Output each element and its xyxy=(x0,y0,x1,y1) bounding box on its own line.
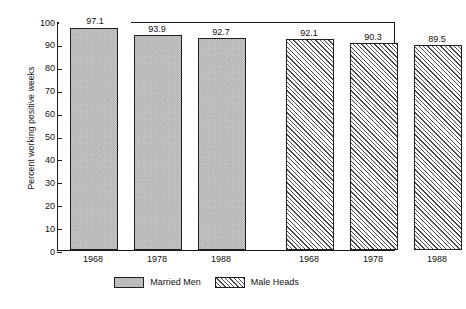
y-tick-mark xyxy=(57,46,62,47)
legend-label: Male Heads xyxy=(251,277,299,288)
y-tick-label: 100 xyxy=(31,17,55,29)
y-tick-mark xyxy=(57,138,62,139)
y-tick-mark xyxy=(57,229,62,230)
bar xyxy=(286,39,334,250)
y-tick-mark xyxy=(57,183,62,184)
bar-value-label: 93.9 xyxy=(123,24,191,34)
bar-value-label: 92.7 xyxy=(187,27,255,37)
bar xyxy=(350,43,398,250)
y-tick-label: 50 xyxy=(31,131,55,143)
y-tick-mark xyxy=(57,115,62,116)
y-tick-label: 40 xyxy=(31,154,55,166)
bar-value-label: 89.5 xyxy=(403,34,466,44)
plot-area: 0102030405060708090100 xyxy=(57,22,395,251)
x-tick-label: 1968 xyxy=(275,254,343,265)
y-tick-mark xyxy=(57,92,62,93)
y-tick-label: 10 xyxy=(31,223,55,235)
bar-value-label: 92.1 xyxy=(275,28,343,38)
bar xyxy=(414,45,462,250)
x-tick-label: 1988 xyxy=(403,254,466,265)
legend-entry: Married Men xyxy=(114,277,201,288)
y-tick-label: 30 xyxy=(31,177,55,189)
y-tick-mark xyxy=(57,252,62,253)
x-tick-label: 1978 xyxy=(123,254,191,265)
bar xyxy=(70,28,118,250)
y-tick-label: 60 xyxy=(31,108,55,120)
x-tick-label: 1978 xyxy=(339,254,407,265)
x-tick-label: 1968 xyxy=(59,254,127,265)
legend-swatch xyxy=(215,277,245,288)
legend-swatch xyxy=(114,277,144,288)
y-tick-label: 80 xyxy=(31,62,55,74)
y-tick-mark xyxy=(57,206,62,207)
legend-entry: Male Heads xyxy=(215,277,299,288)
y-tick-label: 0 xyxy=(31,246,55,258)
bar xyxy=(198,38,246,250)
y-tick-mark xyxy=(57,69,62,70)
legend-label: Married Men xyxy=(150,277,201,288)
y-tick-label: 70 xyxy=(31,85,55,97)
bar-value-label: 90.3 xyxy=(339,32,407,42)
y-tick-mark xyxy=(57,160,62,161)
y-tick-label: 20 xyxy=(31,200,55,212)
bar xyxy=(134,35,182,250)
y-tick-label: 90 xyxy=(31,39,55,51)
bar-value-label: 97.1 xyxy=(59,16,131,26)
bars-container xyxy=(58,23,394,250)
chart-legend: Married MenMale Heads xyxy=(0,277,413,288)
x-tick-label: 1988 xyxy=(187,254,255,265)
